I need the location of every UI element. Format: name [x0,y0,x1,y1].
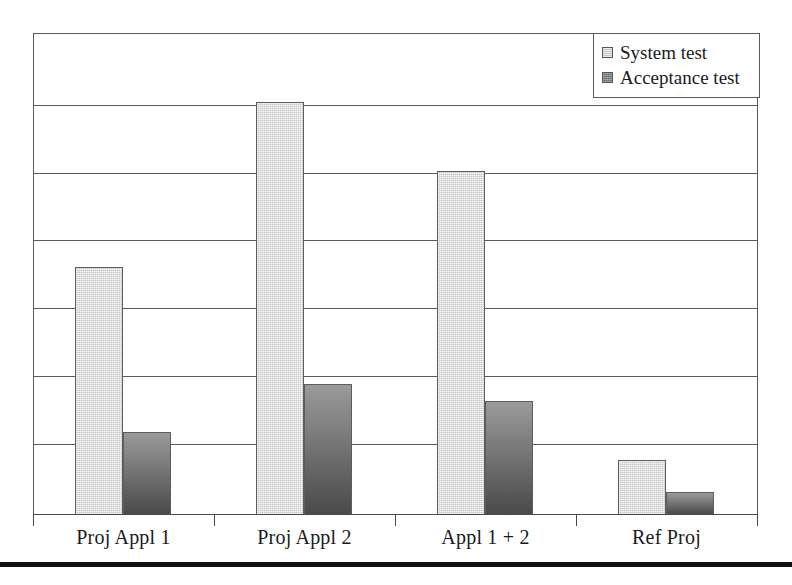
bar-proj-appl-1-acceptance-test [123,432,171,515]
legend-item-acceptance-test: Acceptance test [602,65,751,90]
x-axis-tick [757,514,758,526]
bar-group-0 [75,33,171,515]
chart-plot-area [33,33,758,515]
bar-ref-proj-system-test [618,460,666,515]
bar-chart-figure: Proj Appl 1 Proj Appl 2 Appl 1 + 2 Ref P… [0,0,792,585]
bar-group-3 [618,33,714,515]
legend-item-system-test: System test [602,40,751,65]
legend-swatch-icon-system-test [602,47,613,58]
bar-group-1 [256,33,352,515]
legend-label-system-test: System test [620,42,707,64]
bar-ref-proj-acceptance-test [666,492,714,515]
chart-legend: System test Acceptance test [593,33,760,98]
legend-label-acceptance-test: Acceptance test [620,67,740,89]
bar-appl-1-2-system-test [437,171,485,515]
x-axis-label-1: Proj Appl 2 [214,524,395,550]
bar-proj-appl-1-system-test [75,267,123,515]
bar-proj-appl-2-system-test [256,102,304,515]
x-axis-label-2: Appl 1 + 2 [395,524,576,550]
bar-group-2 [437,33,533,515]
page-divider-rule [0,562,792,567]
x-axis-label-0: Proj Appl 1 [33,524,214,550]
bar-proj-appl-2-acceptance-test [304,384,352,515]
legend-swatch-icon-acceptance-test [602,72,613,83]
bar-appl-1-2-acceptance-test [485,401,533,515]
x-axis-label-3: Ref Proj [576,524,757,550]
